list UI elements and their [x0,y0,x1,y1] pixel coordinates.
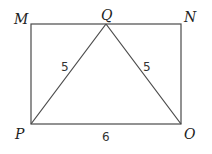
rectangle-mnop [31,24,181,124]
vertex-label-n: N [183,9,197,25]
geometry-diagram: M Q N P O 5 5 6 [0,0,212,154]
length-label-qo: 5 [143,60,151,74]
vertex-label-m: M [13,11,29,27]
segment-pq [31,24,106,124]
vertex-label-q: Q [101,7,113,23]
diagram-svg: M Q N P O 5 5 6 [0,0,212,154]
length-label-pq: 5 [61,60,69,74]
length-label-po: 6 [102,130,110,144]
segment-qo [106,24,181,124]
vertex-label-p: P [14,126,25,142]
vertex-label-o: O [184,126,196,142]
